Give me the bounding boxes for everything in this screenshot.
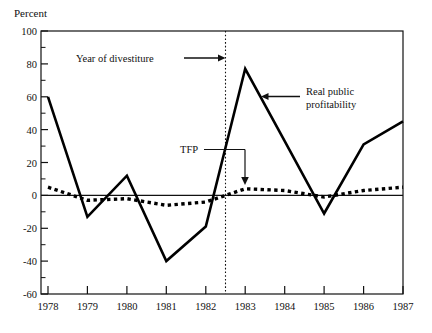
chart-container: Percent 1 <box>0 0 432 333</box>
y-axis-major-ticks <box>41 31 48 294</box>
x-tick-label: 1984 <box>274 301 296 312</box>
tfp-label: TFP <box>180 144 198 155</box>
y-tick-label: 20 <box>27 158 38 169</box>
arrow-right-icon <box>218 55 226 62</box>
x-tick-label: 1983 <box>235 301 256 312</box>
x-axis-tick-labels: 1978 1979 1980 1981 1982 1983 1984 1985 … <box>38 301 414 312</box>
y-tick-label: 60 <box>27 92 38 103</box>
annotation-year-of-divestiture: Year of divestiture <box>76 53 226 64</box>
x-tick-label: 1985 <box>314 301 335 312</box>
annotation-real-public-profitability: Real public profitability <box>261 86 357 110</box>
year-of-divestiture-label: Year of divestiture <box>76 53 154 64</box>
y-tick-label: -20 <box>23 223 37 234</box>
y-tick-label: 80 <box>27 59 38 70</box>
arrow-down-icon <box>241 177 249 185</box>
y-axis-title: Percent <box>14 7 47 19</box>
y-axis-tick-labels: 100 80 60 40 20 0 -20 -40 -60 <box>21 26 37 300</box>
y-tick-label: 40 <box>27 125 38 136</box>
y-tick-label: 0 <box>32 190 37 201</box>
x-tick-label: 1978 <box>38 301 59 312</box>
x-tick-label: 1982 <box>195 301 216 312</box>
real-public-profitability-label-line1: Real public <box>306 86 354 97</box>
x-tick-label: 1986 <box>353 301 374 312</box>
x-tick-label: 1987 <box>393 301 414 312</box>
annotation-tfp: TFP <box>180 144 249 185</box>
x-tick-label: 1981 <box>156 301 177 312</box>
y-tick-label: 100 <box>21 26 37 37</box>
real-public-profitability-label-line2: profitability <box>306 99 357 110</box>
x-tick-label: 1980 <box>116 301 137 312</box>
y-tick-label: -60 <box>23 289 37 300</box>
x-tick-label: 1979 <box>77 301 98 312</box>
percent-line-chart: Percent 1 <box>0 0 432 333</box>
y-tick-label: -40 <box>23 256 37 267</box>
